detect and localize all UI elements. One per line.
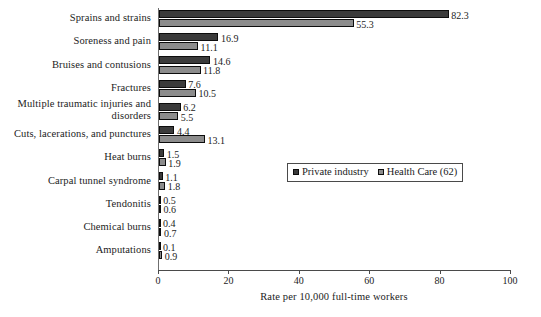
x-tick-label-40: 40 [294,275,304,286]
x-tick-40 [299,270,300,274]
legend-swatch-icon-private-industry [293,169,299,175]
x-tick-60 [369,270,370,274]
legend-label-private-industry: Private industry [302,166,369,178]
bar-0-7 [159,172,163,180]
bar-0-3 [159,80,186,88]
bar-value-label-1-9: 0.7 [164,229,177,238]
legend-item-health-care: Health Care (62) [378,166,458,178]
bar-value-label-1-0: 55.3 [356,20,374,29]
bar-0-2 [159,56,210,64]
bar-value-label-1-7: 1.8 [168,182,181,191]
bar-0-6 [159,149,164,157]
bar-1-4 [159,112,178,120]
bar-value-label-1-1: 11.1 [201,43,218,52]
chart-legend: Private industry Health Care (62) [287,163,463,182]
bar-value-label-1-5: 13.1 [208,136,226,145]
category-label-9: Chemical burns [83,221,151,233]
x-tick-80 [440,270,441,274]
bar-1-5 [159,135,205,143]
bar-0-5 [159,126,174,134]
bar-1-6 [159,158,166,166]
bar-1-3 [159,89,196,97]
x-tick-20 [228,270,229,274]
bar-value-label-0-5: 4.4 [177,127,190,136]
category-label-8: Tendonitis [106,198,151,210]
legend-label-health-care: Health Care (62) [387,166,458,178]
bar-value-label-1-10: 0.9 [165,252,178,261]
x-tick-label-80: 80 [435,275,445,286]
category-label-1: Soreness and pain [73,35,151,47]
bar-1-2 [159,66,201,74]
bar-value-label-1-2: 11.8 [203,66,220,75]
bar-0-0 [159,10,449,18]
bar-1-9 [159,228,161,236]
category-label-10: Amputations [96,244,151,256]
x-tick-label-60: 60 [364,275,374,286]
bar-1-10 [159,251,162,259]
x-tick-label-20: 20 [223,275,233,286]
bar-1-8 [159,205,161,213]
bar-1-7 [159,182,165,190]
bar-value-label-0-1: 16.9 [221,34,239,43]
x-tick-100 [510,270,511,274]
category-label-5: Cuts, lacerations, and punctures [14,128,151,140]
category-label-3: Fractures [111,82,151,94]
plot-area: 020406080100 82.355.316.911.114.611.87.6… [158,8,510,270]
bar-value-label-0-9: 0.4 [163,219,176,228]
legend-swatch-icon-health-care [378,169,384,175]
bar-value-label-0-4: 6.2 [183,103,196,112]
bar-value-label-1-3: 10.5 [198,89,216,98]
bar-0-4 [159,103,181,111]
bar-chart: Sprains and strainsSoreness and painBrui… [0,0,541,317]
x-tick-label-100: 100 [503,275,518,286]
bar-0-8 [159,196,161,204]
category-label-6: Heat burns [104,151,151,163]
legend-item-private-industry: Private industry [293,166,369,178]
bar-0-9 [159,219,161,227]
x-axis-title: Rate per 10,000 full-time workers [158,291,510,302]
bar-value-label-1-8: 0.6 [164,205,177,214]
x-axis-line [158,270,510,271]
x-tick-0 [158,270,159,274]
category-label-4: Multiple traumatic injuries and disorder… [1,98,151,121]
x-tick-label-0: 0 [156,275,161,286]
category-label-7: Carpal tunnel syndrome [48,175,151,187]
bar-0-10 [159,242,161,250]
bar-1-1 [159,42,198,50]
bar-1-0 [159,19,354,27]
bar-value-label-1-6: 1.9 [168,159,181,168]
category-label-2: Bruises and contusions [52,59,151,71]
bar-value-label-0-0: 82.3 [451,11,469,20]
bar-0-1 [159,33,218,41]
category-label-0: Sprains and strains [70,12,151,24]
bar-value-label-1-4: 5.5 [181,113,194,122]
category-axis-labels: Sprains and strainsSoreness and painBrui… [0,0,155,265]
